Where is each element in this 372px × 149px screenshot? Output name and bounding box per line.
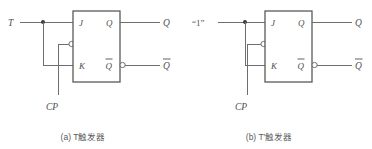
panel-a-circuit: J K Q Q T CP Q Q [8,11,171,112]
panel-b-output-qbar-label: Q [355,61,362,71]
panel-a-input-label: T [8,18,14,28]
panel-a-clock-label: CP [46,102,58,112]
panel-b-input-label: “1” [192,18,205,28]
panel-b-pin-k: K [270,61,278,71]
panel-b-qbar-inversion-bubble [312,62,317,67]
panel-a-pin-q: Q [106,18,113,28]
panel-b-pin-qbar: Q [298,61,305,71]
figure-canvas: J K Q Q T CP Q Q [0,0,372,149]
panel-a-qbar-inversion-bubble [120,62,125,67]
panel-a-caption: (a) T触发器 [28,130,138,142]
panel-b-caption: (b) T′触发器 [214,130,324,142]
panel-b-output-q-label: Q [355,18,362,28]
panel-a-pin-qbar: Q [106,61,113,71]
panel-b-circuit: J K Q Q “1” CP Q Q [192,11,363,112]
panel-a-output-qbar-label: Q [163,61,170,71]
panel-a-output-q-label: Q [163,18,170,28]
circuit-diagram-svg: J K Q Q T CP Q Q [0,0,372,149]
panel-a-pin-k: K [78,61,86,71]
panel-b-clock-label: CP [235,102,247,112]
panel-b-pin-q: Q [298,18,305,28]
